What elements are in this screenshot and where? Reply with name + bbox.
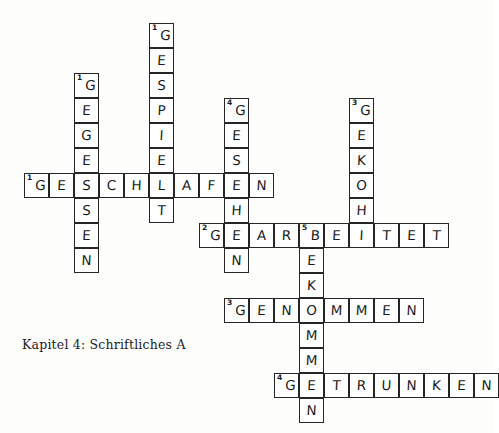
crossword-cell[interactable]: S: [74, 173, 99, 198]
crossword-cell[interactable]: 3G: [224, 298, 249, 323]
cell-letter: P: [149, 99, 173, 122]
crossword-cell[interactable]: S: [149, 73, 174, 98]
crossword-cell[interactable]: M: [299, 348, 324, 373]
crossword-cell[interactable]: 1G: [24, 173, 49, 198]
crossword-cell[interactable]: E: [249, 298, 274, 323]
crossword-cell[interactable]: E: [149, 148, 174, 173]
crossword-cell[interactable]: E: [299, 248, 324, 273]
crossword-cell[interactable]: E: [224, 123, 249, 148]
cell-letter: E: [324, 224, 348, 247]
cell-letter: H: [224, 199, 248, 222]
crossword-cell[interactable]: A: [174, 173, 199, 198]
crossword-cell[interactable]: E: [449, 373, 474, 398]
cell-letter: E: [299, 249, 323, 272]
crossword-cell[interactable]: S: [74, 198, 99, 223]
crossword-cell[interactable]: 3G: [349, 98, 374, 123]
crossword-cell[interactable]: T: [424, 223, 449, 248]
crossword-cell[interactable]: E: [74, 98, 99, 123]
crossword-cell[interactable]: T: [149, 198, 174, 223]
cell-letter: F: [199, 174, 223, 197]
cell-letter: O: [299, 299, 323, 322]
crossword-cell[interactable]: L: [149, 173, 174, 198]
crossword-cell[interactable]: E: [224, 223, 249, 248]
crossword-cell[interactable]: S: [224, 148, 249, 173]
crossword-cell[interactable]: O: [349, 173, 374, 198]
crossword-cell[interactable]: M: [349, 298, 374, 323]
cell-letter: N: [399, 299, 423, 322]
cell-letter: K: [349, 149, 373, 172]
cell-letter: A: [174, 174, 198, 197]
cell-letter: C: [99, 174, 123, 197]
crossword-cell[interactable]: I: [149, 123, 174, 148]
crossword-cell[interactable]: T: [374, 223, 399, 248]
crossword-cell[interactable]: K: [424, 373, 449, 398]
cell-letter: T: [324, 374, 348, 397]
crossword-cell[interactable]: H: [224, 198, 249, 223]
crossword-cell[interactable]: N: [74, 248, 99, 273]
cell-letter: E: [74, 99, 98, 122]
cell-letter: E: [349, 124, 373, 147]
crossword-cell[interactable]: E: [349, 123, 374, 148]
crossword-cell[interactable]: F: [199, 173, 224, 198]
crossword-cell[interactable]: N: [399, 298, 424, 323]
crossword-cell[interactable]: 1G: [74, 73, 99, 98]
crossword-cell[interactable]: M: [324, 298, 349, 323]
crossword-cell[interactable]: 2G: [199, 223, 224, 248]
cell-letter: E: [374, 299, 398, 322]
cell-letter: L: [149, 174, 173, 197]
crossword-cell[interactable]: M: [299, 323, 324, 348]
page-caption: Kapitel 4: Schriftliches A: [22, 337, 186, 352]
cell-letter: N: [274, 299, 298, 322]
cell-letter: G: [149, 24, 177, 47]
crossword-cell[interactable]: C: [99, 173, 124, 198]
crossword-cell[interactable]: E: [299, 373, 324, 398]
cell-letter: R: [349, 374, 373, 397]
cell-letter: H: [124, 174, 148, 197]
cell-letter: S: [149, 74, 173, 97]
crossword-cell[interactable]: N: [399, 373, 424, 398]
crossword-cell[interactable]: O: [299, 298, 324, 323]
crossword-cell[interactable]: E: [324, 223, 349, 248]
crossword-cell[interactable]: 5B: [299, 223, 324, 248]
crossword-cell[interactable]: N: [249, 173, 274, 198]
crossword-cell[interactable]: 1G: [149, 23, 174, 48]
cell-letter: E: [399, 224, 423, 247]
cell-letter: M: [324, 299, 348, 322]
cell-letter: N: [249, 174, 273, 197]
crossword-cell[interactable]: N: [274, 298, 299, 323]
crossword-cell[interactable]: E: [149, 48, 174, 73]
cell-letter: N: [299, 399, 323, 422]
crossword-cell[interactable]: 4G: [224, 98, 249, 123]
crossword-cell[interactable]: R: [274, 223, 299, 248]
crossword-cell[interactable]: E: [374, 298, 399, 323]
crossword-cell[interactable]: E: [399, 223, 424, 248]
crossword-cell[interactable]: 4G: [274, 373, 299, 398]
cell-letter: N: [399, 374, 423, 397]
crossword-cell[interactable]: A: [249, 223, 274, 248]
crossword-cell[interactable]: I: [349, 223, 374, 248]
cell-letter: G: [224, 99, 252, 122]
crossword-cell[interactable]: E: [74, 223, 99, 248]
cell-letter: E: [224, 224, 248, 247]
crossword-cell[interactable]: E: [74, 148, 99, 173]
cell-letter: N: [224, 249, 248, 272]
cell-letter: T: [149, 199, 173, 222]
crossword-cell[interactable]: E: [49, 173, 74, 198]
crossword-cell[interactable]: E: [224, 173, 249, 198]
cell-letter: E: [224, 124, 248, 147]
crossword-cell[interactable]: H: [349, 198, 374, 223]
crossword-cell[interactable]: K: [299, 273, 324, 298]
crossword-cell[interactable]: R: [349, 373, 374, 398]
crossword-cell[interactable]: N: [299, 398, 324, 423]
cell-letter: N: [474, 374, 498, 397]
crossword-cell[interactable]: K: [349, 148, 374, 173]
crossword-cell[interactable]: T: [324, 373, 349, 398]
crossword-cell[interactable]: P: [149, 98, 174, 123]
crossword-cell[interactable]: N: [224, 248, 249, 273]
crossword-cell[interactable]: G: [74, 123, 99, 148]
crossword-cell[interactable]: U: [374, 373, 399, 398]
crossword-cell[interactable]: H: [124, 173, 149, 198]
crossword-cell[interactable]: N: [474, 373, 499, 398]
